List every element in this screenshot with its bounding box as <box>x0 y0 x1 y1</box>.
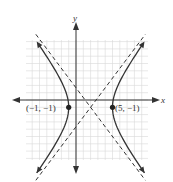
point-label-left-vertex: (−1, −1) <box>26 104 56 113</box>
x-axis-right-arrow-icon <box>152 97 160 103</box>
curve-arrow-icon <box>139 166 145 173</box>
hyperbola-graph <box>0 0 173 182</box>
x-axis-left-arrow-icon <box>12 97 20 103</box>
y-axis-label: y <box>73 14 77 23</box>
y-axis-down-arrow-icon <box>73 166 79 174</box>
x-axis-label: x <box>161 96 165 105</box>
point-label-right-vertex: (5, −1) <box>115 104 140 113</box>
vertex-point-0 <box>66 105 71 110</box>
y-axis-up-arrow-icon <box>73 22 79 30</box>
